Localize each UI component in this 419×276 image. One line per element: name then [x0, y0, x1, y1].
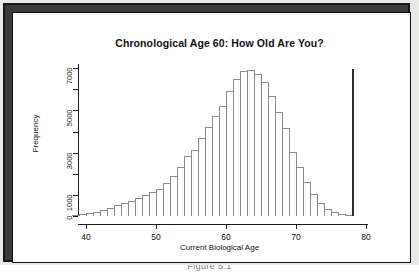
- scanned-figure-page: Chronological Age 60: How Old Are You? F…: [0, 0, 419, 276]
- figure-outer-border: Chronological Age 60: How Old Are You? F…: [3, 3, 410, 262]
- figure-caption: Figure 5.1: [0, 265, 419, 271]
- figure-caption-strip: Figure 5.1: [0, 265, 419, 276]
- histogram-plot: Chronological Age 60: How Old Are You? F…: [21, 21, 418, 270]
- histogram-bars: [21, 21, 418, 270]
- reference-vline: [352, 69, 354, 216]
- figure-inner-border: Chronological Age 60: How Old Are You? F…: [12, 12, 411, 263]
